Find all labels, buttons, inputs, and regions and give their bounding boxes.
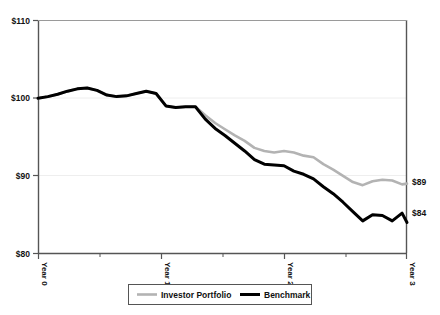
y-axis-ticks — [33, 21, 38, 254]
axes — [38, 20, 407, 254]
series-lines — [38, 88, 407, 222]
y-tick-label-110: $110 — [12, 16, 31, 26]
x-tick-label-year-3: Year 3 — [408, 262, 417, 286]
y-tick-label-80: $80 — [16, 249, 30, 259]
legend: Investor Portfolio Benchmark — [129, 285, 312, 305]
end-value-labels: $89 $84 — [412, 177, 426, 218]
series-line-benchmark — [38, 88, 407, 222]
x-tick-label-year-1: Year 1 — [163, 262, 172, 286]
legend-label-investor-portfolio: Investor Portfolio — [161, 290, 231, 300]
y-axis-labels: $110 $100 $90 $80 — [11, 16, 30, 259]
gridlines — [38, 21, 407, 176]
chart-canvas: $110 $100 $90 $80 Year 0 Year 1 Year 2 Y… — [0, 0, 440, 315]
y-tick-label-100: $100 — [11, 93, 30, 103]
legend-label-benchmark: Benchmark — [264, 290, 311, 300]
end-label-benchmark: $84 — [412, 208, 426, 218]
line-chart: $110 $100 $90 $80 Year 0 Year 1 Year 2 Y… — [0, 0, 440, 315]
series-line-investor-portfolio — [38, 88, 407, 185]
x-axis-labels: Year 0 Year 1 Year 2 Year 3 — [40, 262, 417, 286]
x-tick-label-year-2: Year 2 — [286, 262, 295, 286]
end-label-investor-portfolio: $89 — [412, 177, 426, 187]
x-tick-label-year-0: Year 0 — [40, 262, 49, 286]
y-tick-label-90: $90 — [16, 171, 30, 181]
